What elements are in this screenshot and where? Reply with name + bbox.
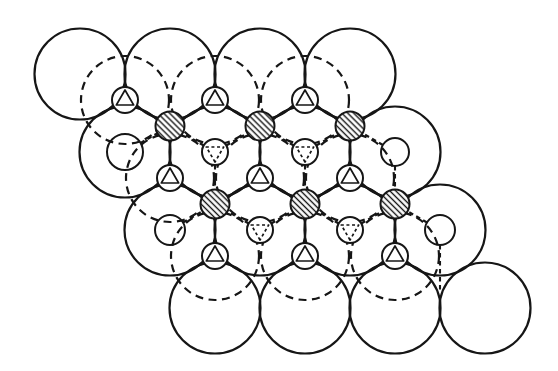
small-hatched-atom (201, 190, 230, 219)
small-hatched-atom (336, 112, 365, 141)
small-hatched-atom (381, 190, 410, 219)
small-hatched-atom (156, 112, 185, 141)
small-hatched-atom (246, 112, 275, 141)
small-hatched-atom (291, 190, 320, 219)
crystal-structure-diagram (0, 0, 558, 371)
scanned-figure-page (0, 0, 558, 371)
figure-background (0, 0, 558, 371)
